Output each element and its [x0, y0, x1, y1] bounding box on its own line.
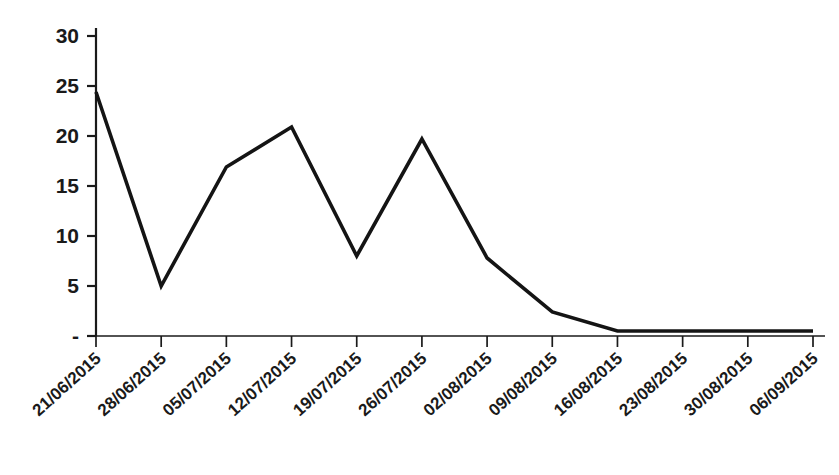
x-tick-label: 30/08/2015	[681, 349, 757, 420]
y-tick-label: 15	[56, 174, 80, 197]
x-tick-label: 06/09/2015	[746, 349, 822, 420]
x-tick-label: 12/07/2015	[224, 349, 300, 420]
x-tick-label: 05/07/2015	[159, 349, 235, 420]
x-axis: 21/06/201528/06/201505/07/201512/07/2015…	[29, 336, 825, 420]
x-tick-label: 28/06/2015	[94, 349, 170, 420]
x-tick-label: 19/07/2015	[289, 349, 365, 420]
x-tick-label: 02/08/2015	[420, 349, 496, 420]
y-axis: -51015202530	[56, 24, 96, 347]
x-tick-label: 23/08/2015	[615, 349, 691, 420]
y-tick-label: 20	[56, 124, 79, 147]
y-tick-label: 30	[56, 24, 79, 47]
y-tick-label: 10	[56, 224, 79, 247]
x-tick-label: 16/08/2015	[550, 349, 626, 420]
data-series-group	[96, 92, 813, 331]
y-tick-label: -	[72, 324, 79, 347]
y-tick-label: 25	[56, 74, 80, 97]
x-tick-label: 26/07/2015	[355, 349, 431, 420]
y-tick-label: 5	[67, 274, 79, 297]
x-tick-label: 09/08/2015	[485, 349, 561, 420]
x-tick-label: 21/06/2015	[29, 349, 105, 420]
line-chart: -51015202530 21/06/201528/06/201505/07/2…	[0, 0, 839, 475]
data-line	[96, 92, 813, 331]
chart-canvas: -51015202530 21/06/201528/06/201505/07/2…	[0, 0, 839, 475]
